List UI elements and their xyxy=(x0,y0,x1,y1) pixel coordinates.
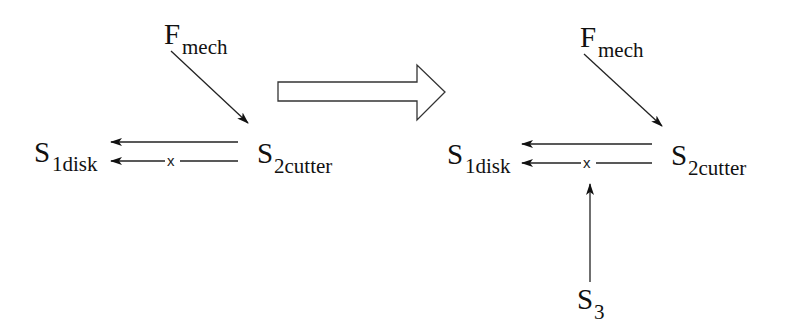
force-label-f-mech: F mech xyxy=(580,21,644,62)
force-main-symbol: F xyxy=(580,21,596,53)
substance-label-s2-cutter: S 2cutter xyxy=(257,137,332,178)
source-subscript: 2cutter xyxy=(274,154,332,178)
target-main-symbol: S xyxy=(34,136,50,168)
force-subscript: mech xyxy=(182,35,228,59)
source-main-symbol: S xyxy=(671,139,687,171)
su-field-diagram: F mech S 1disk S 2cutter x F mech S xyxy=(0,0,794,332)
force-subscript: mech xyxy=(598,38,644,62)
force-to-cutter-arrow xyxy=(171,51,248,123)
substance-label-s2-cutter: S 2cutter xyxy=(671,139,746,180)
substance-label-s1-disk: S 1disk xyxy=(34,136,98,176)
blocked-interaction-arrow: x xyxy=(522,154,652,171)
substance-label-s1-disk: S 1disk xyxy=(447,138,511,178)
target-main-symbol: S xyxy=(447,138,463,170)
source-subscript: 2cutter xyxy=(688,156,746,180)
target-subscript: 1disk xyxy=(465,154,511,178)
blocked-x-icon: x xyxy=(167,152,175,169)
substance-label-s3: S 3 xyxy=(577,283,605,324)
blocked-interaction-arrow: x xyxy=(111,152,238,169)
after-diagram: F mech S 1disk S 2cutter x S 3 xyxy=(447,21,746,324)
force-main-symbol: F xyxy=(164,18,180,50)
target-subscript: 1disk xyxy=(52,152,98,176)
force-to-cutter-arrow xyxy=(584,54,662,126)
hollow-right-arrow-icon xyxy=(278,65,445,120)
blocked-x-icon: x xyxy=(583,154,591,171)
added-main-symbol: S xyxy=(577,283,593,315)
added-subscript: 3 xyxy=(594,300,605,324)
source-main-symbol: S xyxy=(257,137,273,169)
